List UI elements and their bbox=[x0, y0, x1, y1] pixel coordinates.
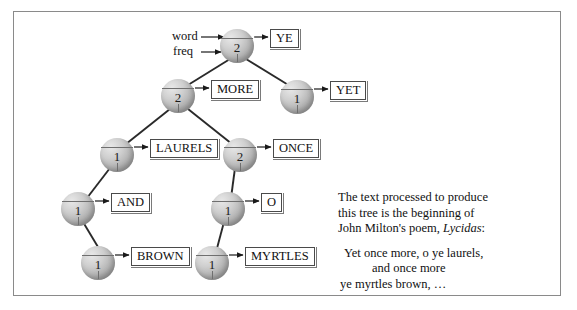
node-stem bbox=[117, 163, 118, 171]
tree-node-brown[interactable]: 1 bbox=[81, 246, 115, 280]
tree-node-myrtles[interactable]: 1 bbox=[195, 246, 229, 280]
word-box-brown[interactable]: BROWN bbox=[131, 247, 190, 266]
word-box-once[interactable]: ONCE bbox=[273, 139, 319, 158]
word-box-ye[interactable]: YE bbox=[270, 29, 299, 48]
caption-line-3-prefix: John Milton's poem, bbox=[338, 221, 443, 235]
caption-line-2: this tree is the beginning of bbox=[338, 206, 538, 222]
node-band bbox=[212, 201, 244, 202]
poem-line-1: Yet once more, o ye laurels, bbox=[338, 246, 538, 262]
tree-node-and[interactable]: 1 bbox=[61, 192, 95, 226]
node-band bbox=[62, 201, 94, 202]
tree-node-o[interactable]: 1 bbox=[211, 192, 245, 226]
word-box-more[interactable]: MORE bbox=[211, 80, 259, 99]
node-band bbox=[162, 88, 194, 89]
node-band bbox=[224, 147, 256, 148]
tree-node-more[interactable]: 2 bbox=[161, 79, 195, 113]
node-stem bbox=[240, 163, 241, 171]
node-band bbox=[221, 38, 253, 39]
node-stem bbox=[212, 271, 213, 279]
node-freq-value: 2 bbox=[220, 40, 254, 55]
word-box-yet[interactable]: YET bbox=[330, 81, 366, 100]
edge-laurels-and bbox=[87, 168, 110, 198]
node-freq-value: 1 bbox=[81, 257, 115, 272]
word-annotation-label: word bbox=[172, 29, 198, 44]
node-stem bbox=[178, 104, 179, 112]
node-stem bbox=[98, 271, 99, 279]
node-freq-value: 2 bbox=[161, 90, 195, 105]
tree-node-yet[interactable]: 1 bbox=[280, 80, 314, 114]
word-box-and[interactable]: AND bbox=[111, 193, 150, 212]
node-band bbox=[196, 255, 228, 256]
node-freq-value: 1 bbox=[211, 203, 245, 218]
node-stem bbox=[228, 217, 229, 225]
figure-page: word freq 2 2 1 1 2 1 1 1 bbox=[0, 0, 577, 310]
node-band bbox=[82, 255, 114, 256]
poem-line-3: ye myrtles brown, … bbox=[338, 277, 538, 293]
node-freq-value: 1 bbox=[100, 149, 134, 164]
word-box-laurels[interactable]: LAURELS bbox=[150, 139, 218, 158]
caption-line-3-suffix: : bbox=[482, 221, 485, 235]
node-band bbox=[101, 147, 133, 148]
caption-line-1: The text processed to produce bbox=[338, 190, 538, 206]
caption-line-3: John Milton's poem, Lycidas: bbox=[338, 221, 538, 237]
node-freq-value: 1 bbox=[195, 257, 229, 272]
freq-annotation-label: freq bbox=[173, 44, 193, 59]
tree-node-once[interactable]: 2 bbox=[223, 138, 257, 172]
node-freq-value: 1 bbox=[280, 91, 314, 106]
caption-block: The text processed to produce this tree … bbox=[338, 190, 538, 292]
caption-poem-title: Lycidas bbox=[443, 221, 482, 235]
node-stem bbox=[237, 54, 238, 62]
node-stem bbox=[78, 217, 79, 225]
node-freq-value: 1 bbox=[61, 203, 95, 218]
poem-quote: Yet once more, o ye laurels, and once mo… bbox=[338, 246, 538, 293]
node-band bbox=[281, 89, 313, 90]
word-box-o[interactable]: O bbox=[261, 193, 282, 212]
poem-line-2: and once more bbox=[338, 261, 538, 277]
node-stem bbox=[297, 105, 298, 113]
word-box-myrtles[interactable]: MYRTLES bbox=[245, 247, 315, 266]
tree-node-ye[interactable]: 2 bbox=[220, 29, 254, 63]
tree-node-laurels[interactable]: 1 bbox=[100, 138, 134, 172]
node-freq-value: 2 bbox=[223, 149, 257, 164]
